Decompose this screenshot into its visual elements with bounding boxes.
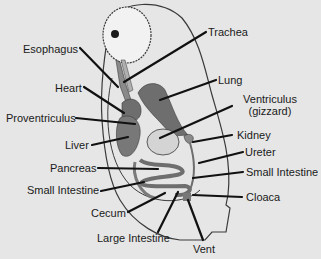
small-intestine-organ xyxy=(140,160,190,195)
label-ventriculus-name: Ventriculus xyxy=(230,93,310,105)
label-small-intestine-right: Small Intestine xyxy=(246,166,318,178)
label-kidney: Kidney xyxy=(237,129,271,141)
ventriculus-organ xyxy=(147,129,179,155)
eye xyxy=(111,30,119,38)
label-ureter: Ureter xyxy=(245,146,276,158)
label-small-intestine-left: Small Intestine xyxy=(27,184,99,196)
label-large-intestine: Large Intestine xyxy=(97,232,170,244)
label-liver: Liver xyxy=(65,139,89,151)
label-lung: Lung xyxy=(218,74,242,86)
label-cloaca: Cloaca xyxy=(246,191,280,203)
label-trachea: Trachea xyxy=(208,26,248,38)
label-pancreas: Pancreas xyxy=(50,162,96,174)
label-proventriculus: Proventriculus xyxy=(6,112,76,124)
label-gizzard: (gizzard) xyxy=(230,105,310,117)
label-vent: Vent xyxy=(193,243,215,255)
ureter-organ xyxy=(190,143,194,190)
label-esophagus: Esophagus xyxy=(23,43,78,55)
head-face-disc xyxy=(103,7,151,63)
label-heart: Heart xyxy=(55,82,82,94)
label-ventriculus: Ventriculus (gizzard) xyxy=(230,93,310,117)
label-cecum: Cecum xyxy=(91,207,126,219)
owl-anatomy-diagram xyxy=(0,0,321,259)
